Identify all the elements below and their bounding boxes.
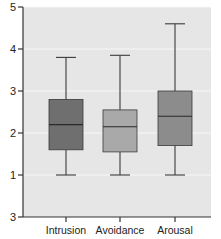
y-axis-ticks: 543213 [10, 1, 23, 223]
x-tick-label: Arousal [157, 224, 193, 236]
y-tick-label: 5 [10, 1, 16, 13]
iqr-box [158, 91, 192, 146]
y-tick-label: 2 [10, 127, 16, 139]
box-plot-chart: 543213 IntrusionAvoidanceArousal [0, 0, 221, 239]
x-axis-ticks: IntrusionAvoidanceArousal [46, 217, 193, 236]
y-tick-label: 1 [10, 169, 16, 181]
x-tick-label: Avoidance [96, 224, 145, 236]
iqr-box [103, 110, 137, 152]
x-tick-label: Intrusion [46, 224, 86, 236]
y-tick-label: 3 [10, 85, 16, 97]
y-tick-label: 4 [10, 43, 16, 55]
y-tick-label: 3 [10, 211, 16, 223]
